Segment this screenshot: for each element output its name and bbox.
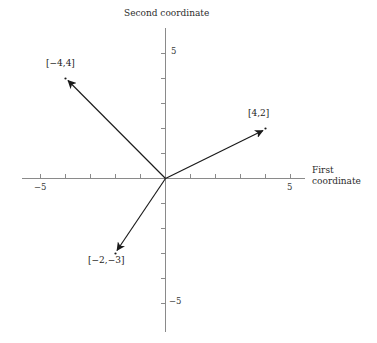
vector-plot: Second coordinate First coordinate −5 5 … (0, 0, 377, 343)
x-tick-label-pos5: 5 (287, 183, 292, 193)
vector-label-v2: [4,2] (248, 108, 269, 118)
vector-arrow-v3 (117, 179, 166, 251)
axes-group (22, 28, 305, 332)
point-dot-v2 (264, 127, 266, 129)
y-tick-label-pos5: 5 (171, 47, 176, 57)
x-axis-title-line1: First (312, 165, 361, 176)
vector-label-v1: [−4,4] (46, 58, 75, 68)
x-axis-title: First coordinate (312, 165, 361, 188)
x-axis-title-line2: coordinate (312, 176, 361, 187)
point-dot-v1 (64, 77, 66, 79)
x-tick-label-neg5: −5 (34, 183, 47, 193)
vector-arrow-v2 (166, 131, 264, 179)
vector-arrow-v1 (68, 81, 166, 179)
y-tick-label-neg5: −5 (169, 297, 182, 307)
y-axis-title: Second coordinate (124, 8, 209, 18)
vector-label-v3: [−2,−3] (88, 255, 124, 265)
